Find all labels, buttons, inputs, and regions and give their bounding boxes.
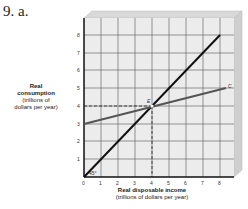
svg-text:6: 6 — [184, 180, 187, 186]
equilibrium-point — [151, 105, 154, 108]
svg-text:0: 0 — [82, 180, 85, 186]
svg-text:3: 3 — [133, 180, 136, 186]
svg-text:4: 4 — [150, 180, 153, 186]
svg-text:7: 7 — [77, 50, 80, 56]
x-tick-labels: 0 1 2 3 4 5 6 7 8 — [82, 180, 221, 186]
svg-text:3: 3 — [77, 121, 80, 127]
x-axis-subtitle: (trillions of dollars per year) — [84, 194, 220, 201]
svg-text:5: 5 — [167, 180, 170, 186]
y-tick-labels: 1 2 3 4 5 6 7 8 — [77, 32, 80, 162]
y-axis-title-2: consumption — [0, 90, 72, 97]
svg-text:7: 7 — [201, 180, 204, 186]
svg-text:2: 2 — [116, 180, 119, 186]
box-side-face — [234, 11, 242, 177]
y-axis-subtitle: (trillions of — [0, 97, 72, 104]
svg-text:4: 4 — [77, 103, 80, 109]
angle-label: 45° — [89, 170, 97, 176]
svg-text:1: 1 — [99, 180, 102, 186]
box-top-face — [84, 11, 242, 18]
x-axis-title: Real disposable income — [84, 187, 220, 194]
svg-text:2: 2 — [77, 138, 80, 144]
svg-text:8: 8 — [218, 180, 221, 186]
svg-text:8: 8 — [77, 32, 80, 38]
c-label: C — [228, 83, 232, 89]
y-axis-subtitle-2: dollars per year) — [0, 104, 72, 111]
svg-text:6: 6 — [77, 67, 80, 73]
svg-text:1: 1 — [77, 156, 80, 162]
y-axis-title: Real — [0, 83, 72, 90]
svg-text:5: 5 — [77, 85, 80, 91]
